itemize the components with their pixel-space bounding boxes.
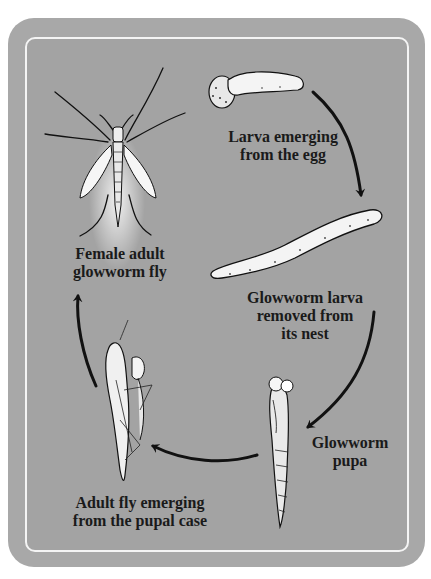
larva-illustration xyxy=(211,210,382,279)
adult-fly-illustration xyxy=(45,68,185,270)
pupa-illustration xyxy=(269,377,293,527)
label-adult: Female adult glowworm fly xyxy=(60,245,180,281)
arrow-pupa-to-emerging xyxy=(153,446,257,461)
label-larva: Glowworm larva removed from its nest xyxy=(220,289,390,343)
label-larva-hatching: Larva emerging from the egg xyxy=(218,128,348,164)
emerging-adult-illustration xyxy=(106,320,152,480)
label-pupa: Glowworm pupa xyxy=(300,434,400,470)
arrow-emerging-to-adult xyxy=(78,296,96,386)
larva-hatching-illustration xyxy=(209,72,303,108)
label-emerging-adult: Adult fly emerging from the pupal case xyxy=(50,494,230,530)
